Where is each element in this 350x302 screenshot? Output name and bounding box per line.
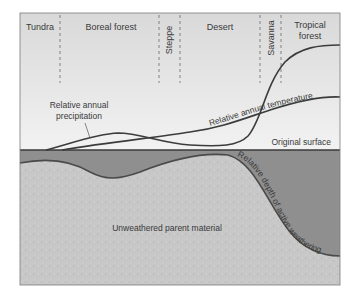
zone-label-tundra: Tundra [26, 22, 54, 32]
parent-material-label: Unweathered parent material [112, 223, 222, 233]
weathering-diagram: Tundra Boreal forest Steppe Desert Savan… [0, 0, 350, 302]
zone-label-savanna: Savanna [266, 20, 276, 56]
precipitation-label-line1: Relative annual [50, 100, 109, 110]
zone-label-tropical: Tropical [294, 20, 326, 30]
precipitation-label-line2: precipitation [56, 111, 102, 121]
zone-label-forest: forest [299, 31, 322, 41]
zone-label-desert: Desert [207, 22, 234, 32]
original-surface-label: Original surface [271, 137, 331, 147]
zone-label-steppe: Steppe [164, 26, 174, 55]
zone-label-boreal-forest: Boreal forest [85, 22, 137, 32]
